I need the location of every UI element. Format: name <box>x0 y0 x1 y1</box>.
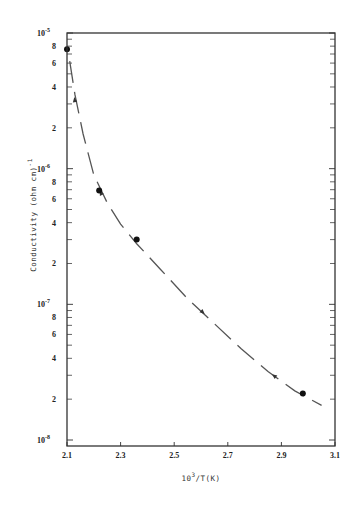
data-point <box>134 237 140 243</box>
y-axis-label-sup: -1 <box>26 158 33 166</box>
y-tick-label-minor: 8 <box>52 313 56 322</box>
y-tick-label-minor: 4 <box>52 83 56 92</box>
conductivity-chart: 10-5246810-6246810-7246810-8 2.12.32.52.… <box>0 0 357 511</box>
y-tick-label-base: 10 <box>37 165 45 174</box>
y-tick-label-decade: 10-8 <box>37 434 50 445</box>
y-tick-label-exp: -7 <box>45 298 50 304</box>
y-tick-label-exp: -5 <box>45 27 50 33</box>
dashed-curve <box>70 61 322 405</box>
data-point <box>300 391 306 397</box>
y-tick-label-base: 10 <box>37 300 45 309</box>
y-tick-label-minor: 4 <box>52 219 56 228</box>
x-axis-label-main: 10 <box>181 474 191 483</box>
data-point <box>96 188 102 194</box>
y-tick-label-minor: 8 <box>52 178 56 187</box>
y-tick-label-base: 10 <box>37 29 45 38</box>
plot-frame <box>67 33 335 446</box>
data-curve <box>70 61 322 405</box>
y-tick-label-exp: -8 <box>45 434 50 440</box>
x-tick-label: 2.9 <box>276 451 286 460</box>
y-tick-label-minor: 8 <box>52 42 56 51</box>
y-tick-label-minor: 2 <box>52 259 56 268</box>
y-tick-label-minor: 2 <box>52 124 56 133</box>
x-tick-label: 2.1 <box>62 451 72 460</box>
y-tick-label-minor: 2 <box>52 395 56 404</box>
y-tick-label-minor: 6 <box>52 195 56 204</box>
y-tick-label-minor: 6 <box>52 59 56 68</box>
y-axis-label: Conductivity (ohm cm)-1 <box>26 158 38 272</box>
y-axis-ticks: 10-5246810-6246810-7246810-8 <box>37 27 335 445</box>
x-axis-label: 103/T(K) <box>181 471 220 483</box>
y-tick-label-decade: 10-6 <box>37 163 50 174</box>
x-axis-ticks: 2.12.32.52.72.93.1 <box>62 442 340 460</box>
y-tick-label-decade: 10-5 <box>37 27 50 38</box>
y-tick-label-minor: 6 <box>52 330 56 339</box>
x-tick-label: 2.3 <box>116 451 126 460</box>
y-tick-label-base: 10 <box>37 436 45 445</box>
y-axis-label-main: Conductivity (ohm cm) <box>29 166 38 271</box>
x-axis-label-rest: /T(K) <box>196 474 221 483</box>
y-tick-label-decade: 10-7 <box>37 298 50 309</box>
x-tick-label: 2.5 <box>169 451 179 460</box>
x-tick-label: 2.7 <box>223 451 233 460</box>
x-tick-label: 3.1 <box>330 451 340 460</box>
data-points <box>64 46 306 396</box>
y-tick-label-minor: 4 <box>52 354 56 363</box>
y-tick-label-exp: -6 <box>45 163 50 169</box>
